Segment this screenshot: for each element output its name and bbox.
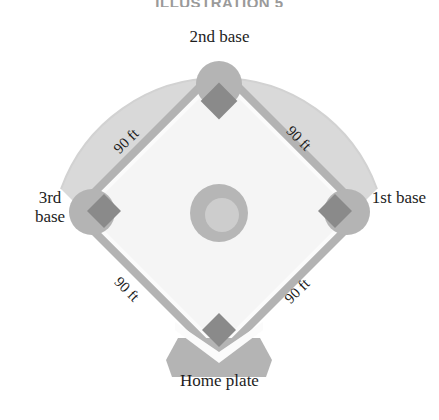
label-first-base: 1st base bbox=[371, 188, 427, 207]
label-third-base: 3rd base bbox=[22, 188, 78, 226]
pitchers-mound-inner bbox=[205, 198, 239, 232]
label-home-plate: Home plate bbox=[0, 371, 439, 390]
label-second-base: 2nd base bbox=[0, 27, 439, 46]
diagram-canvas: ILLUSTRATION 5 bbox=[0, 0, 439, 420]
